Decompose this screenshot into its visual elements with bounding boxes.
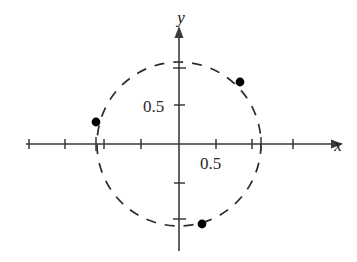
data-point	[92, 118, 101, 127]
data-point	[198, 220, 207, 229]
x-axis-label: x	[333, 136, 342, 155]
data-point	[236, 78, 245, 87]
x-axis-tick-label-half: 0.5	[200, 154, 221, 173]
unit-circle-figure: 0.5 0.5 x y	[0, 0, 357, 262]
plot-canvas: 0.5 0.5 x y	[0, 0, 357, 262]
y-axis-tick-label-half: 0.5	[143, 97, 164, 116]
y-axis-label: y	[175, 8, 185, 27]
